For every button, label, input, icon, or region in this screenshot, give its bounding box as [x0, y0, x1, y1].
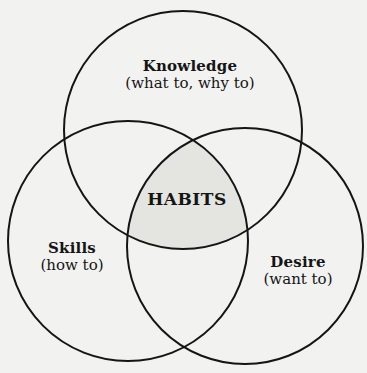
skills-title: Skills	[40, 240, 103, 257]
habits-intersection-shade	[127, 128, 363, 364]
desire-title: Desire	[263, 254, 332, 271]
skills-label: Skills (how to)	[40, 240, 103, 274]
habits-label: HABITS	[147, 189, 227, 209]
knowledge-label: Knowledge (what to, why to)	[125, 58, 254, 92]
desire-label: Desire (want to)	[263, 254, 332, 288]
knowledge-title: Knowledge	[125, 58, 254, 75]
knowledge-subtitle: (what to, why to)	[125, 75, 254, 92]
venn-diagram	[0, 0, 367, 373]
skills-subtitle: (how to)	[40, 257, 103, 274]
desire-subtitle: (want to)	[263, 271, 332, 288]
